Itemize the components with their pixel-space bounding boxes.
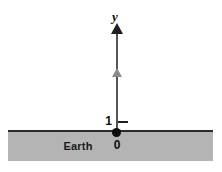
tick-label-1: 1 — [92, 114, 112, 128]
velocity-arrow-icon — [112, 68, 122, 77]
origin-dot-icon — [112, 128, 121, 137]
y-axis-label: y — [112, 9, 118, 25]
origin-label: 0 — [107, 138, 127, 152]
y-axis-line — [116, 32, 118, 133]
earth-surface-line — [8, 130, 213, 132]
earth-label: Earth — [8, 140, 148, 152]
tick-mark-1 — [118, 121, 128, 123]
physics-diagram: Earth y 1 0 — [0, 0, 222, 172]
